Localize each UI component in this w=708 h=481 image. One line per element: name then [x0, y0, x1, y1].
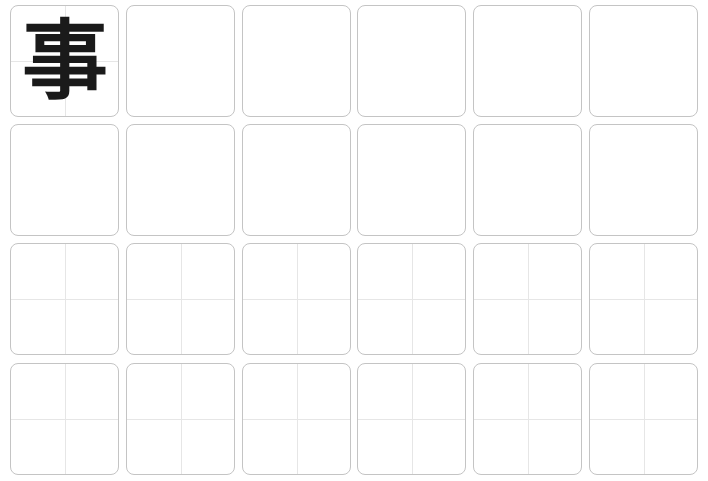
practice-cell[interactable]: [10, 124, 119, 236]
practice-cell[interactable]: [242, 5, 351, 117]
practice-cell[interactable]: [242, 363, 351, 475]
horizontal-guide-line: [127, 419, 234, 420]
practice-cell[interactable]: [242, 124, 351, 236]
practice-cell[interactable]: [473, 124, 582, 236]
practice-cell[interactable]: [473, 5, 582, 117]
practice-cell[interactable]: [10, 243, 119, 355]
practice-cell[interactable]: [473, 243, 582, 355]
horizontal-guide-line: [590, 299, 697, 300]
practice-cell[interactable]: [10, 363, 119, 475]
practice-cell[interactable]: [126, 124, 235, 236]
practice-cell[interactable]: [589, 124, 698, 236]
practice-cell[interactable]: [589, 363, 698, 475]
horizontal-guide-line: [11, 419, 118, 420]
horizontal-guide-line: [590, 419, 697, 420]
model-character-cell[interactable]: 事: [10, 5, 119, 117]
practice-cell[interactable]: [357, 363, 466, 475]
practice-cell[interactable]: [126, 243, 235, 355]
horizontal-guide-line: [358, 419, 465, 420]
practice-cell[interactable]: [242, 243, 351, 355]
horizontal-guide-line: [474, 299, 581, 300]
horizontal-guide-line: [243, 299, 350, 300]
horizontal-guide-line: [127, 299, 234, 300]
horizontal-guide-line: [474, 419, 581, 420]
horizontal-guide-line: [11, 299, 118, 300]
horizontal-guide-line: [243, 419, 350, 420]
practice-cell[interactable]: [357, 5, 466, 117]
practice-cell[interactable]: [126, 5, 235, 117]
practice-cell[interactable]: [589, 5, 698, 117]
model-character: 事: [11, 6, 118, 116]
practice-cell[interactable]: [473, 363, 582, 475]
practice-cell[interactable]: [357, 124, 466, 236]
practice-cell[interactable]: [126, 363, 235, 475]
practice-cell[interactable]: [589, 243, 698, 355]
practice-cell[interactable]: [357, 243, 466, 355]
horizontal-guide-line: [358, 299, 465, 300]
